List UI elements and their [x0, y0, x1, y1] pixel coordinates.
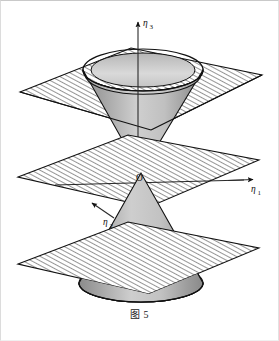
axis-label-eta1: η: [251, 184, 256, 194]
plane-bottom-surface: [18, 222, 259, 294]
plane-bottom: [18, 222, 259, 294]
axis-label-eta1-subscript: 1: [258, 189, 262, 197]
cone-planes-diagram: η 3: [0, 0, 279, 341]
axis-label-eta2: η: [103, 217, 108, 227]
axis-label-eta3-subscript: 3: [150, 23, 154, 31]
axis-eta1: η 1: [228, 180, 262, 197]
axis-label-eta2-subscript: 2: [110, 222, 114, 230]
figure-caption-prefix: 图: [130, 309, 141, 320]
axis-eta2-line: [92, 203, 114, 218]
origin-marker: O: [136, 173, 143, 183]
figure-container: η 3: [0, 0, 279, 341]
axis-eta2: η 2: [92, 203, 114, 230]
figure-caption-number: 5: [144, 309, 150, 320]
axis-eta1-line: [228, 180, 253, 181]
axis-label-eta3: η: [143, 18, 148, 28]
cone-rim-inner-ellipse: [91, 53, 195, 87]
origin-label: O: [136, 173, 143, 183]
figure-caption: 图5: [0, 306, 279, 321]
